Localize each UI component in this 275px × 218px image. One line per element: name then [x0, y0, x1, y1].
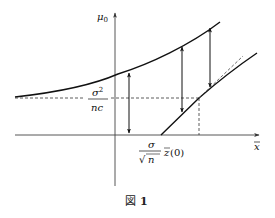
x-axis-label: x — [254, 141, 260, 152]
svg-text:σ: σ — [148, 139, 156, 150]
tangent-dashed — [199, 56, 243, 98]
svg-text:√: √ — [139, 154, 146, 165]
level-label: σ2 nc — [88, 86, 108, 113]
upper-curve — [15, 22, 220, 97]
svg-text:n: n — [148, 154, 154, 165]
svg-text:nc: nc — [91, 102, 103, 113]
figure-caption: 図1 — [125, 195, 148, 208]
figure-diagram: μ0 x σ2 nc σ √ n z (0) 図1 — [0, 0, 275, 218]
svg-text:σ2: σ2 — [92, 86, 103, 98]
threshold-label: σ √ n z (0) — [139, 139, 184, 165]
y-axis-label: μ0 — [97, 11, 108, 24]
svg-text:z: z — [163, 147, 170, 158]
lower-curve — [161, 53, 257, 135]
svg-text:(0): (0) — [170, 147, 184, 158]
